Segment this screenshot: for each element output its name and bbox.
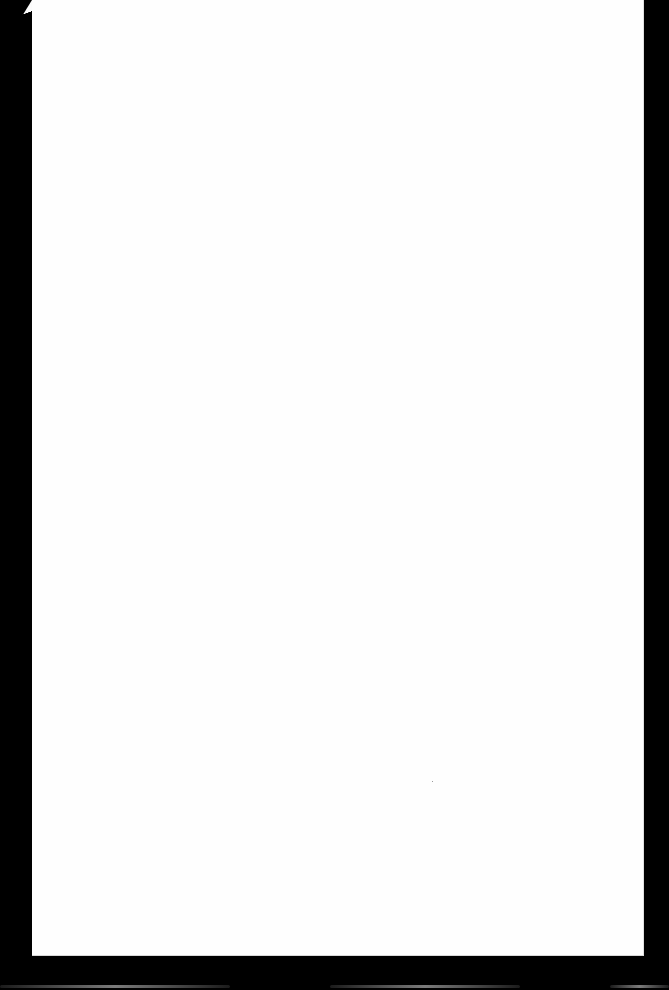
scan-streak <box>610 985 669 988</box>
blank-page <box>32 0 644 956</box>
scan-streak <box>330 985 520 988</box>
folded-corner <box>0 0 32 52</box>
dust-speck <box>432 781 433 782</box>
scan-streak <box>0 985 230 988</box>
